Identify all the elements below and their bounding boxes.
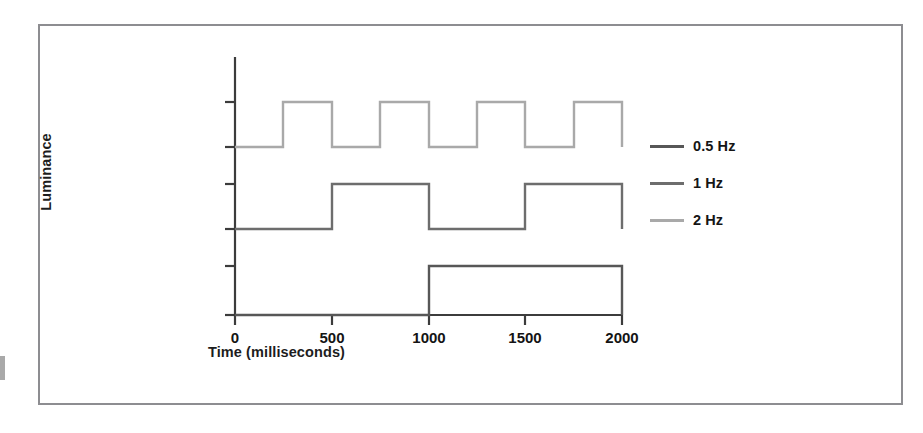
legend-swatch-1hz-icon [650,182,684,185]
x-tick-label-0: 0 [203,329,267,346]
figure-frame: Luminance Time (milliseconds) 0 500 1000… [38,24,903,405]
x-tick-label-1000: 1000 [397,329,461,346]
x-axis-title: Time (milliseconds) [208,344,345,360]
figure-page: Luminance Time (milliseconds) 0 500 1000… [0,0,923,433]
series-line-05hz [235,266,622,315]
legend-label-1hz: 1 Hz [693,175,723,191]
y-axis-ticks [225,102,235,315]
series-line-2hz [235,102,622,147]
legend-item-2hz: 2 Hz [650,211,723,229]
y-axis-title: Luminance [38,133,54,210]
x-tick-label-2000: 2000 [590,329,654,346]
series-line-1hz [235,184,622,229]
legend-label-05hz: 0.5 Hz [693,138,736,154]
x-axis-ticks [235,315,622,325]
x-tick-label-500: 500 [300,329,364,346]
legend-item-1hz: 1 Hz [650,174,723,192]
scan-edge-artifact [0,356,5,380]
legend-swatch-05hz-icon [650,145,684,148]
x-tick-label-1500: 1500 [493,329,557,346]
plot-area: Luminance Time (milliseconds) 0 500 1000… [40,26,905,407]
legend-label-2hz: 2 Hz [693,212,723,228]
legend-item-05hz: 0.5 Hz [650,137,736,155]
legend-swatch-2hz-icon [650,219,684,222]
waveform-plot [40,26,905,407]
